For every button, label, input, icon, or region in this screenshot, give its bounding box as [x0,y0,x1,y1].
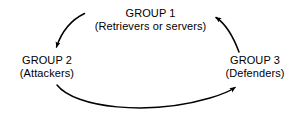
node-group3-description: (Defenders) [210,67,300,80]
node-group2-description: (Attackers) [2,67,92,80]
node-group2-title: GROUP 2 [2,54,92,67]
node-group1-description: (Retrievers or servers) [0,20,301,33]
node-group3: GROUP 3 (Defenders) [210,54,300,79]
node-group2: GROUP 2 (Attackers) [2,54,92,79]
node-group3-title: GROUP 3 [210,54,300,67]
diagram-canvas: GROUP 1 (Retrievers or servers) GROUP 2 … [0,0,301,124]
node-group1: GROUP 1 (Retrievers or servers) [0,7,301,32]
node-group1-title: GROUP 1 [0,7,301,20]
arrow-group2-to-group3 [57,85,235,108]
